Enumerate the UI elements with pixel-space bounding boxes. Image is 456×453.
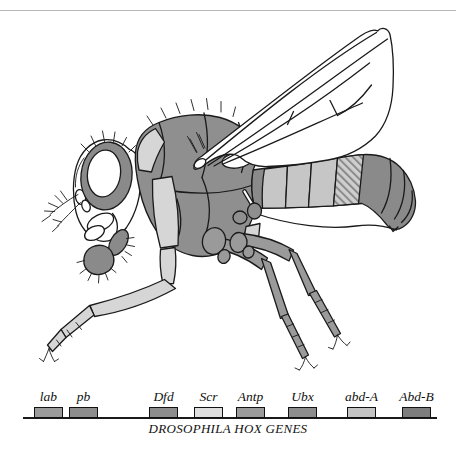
abdomen-segment-a2 [262, 166, 287, 208]
gene-box-abd-A [347, 407, 376, 418]
gene-box-pb [69, 407, 98, 418]
front-leg-tibia [90, 280, 176, 317]
gene-label-Antp: Antp [225, 389, 277, 405]
gene-box-lab [34, 407, 63, 418]
abdomen-segment-a4 [309, 158, 338, 207]
gene-label-pb: pb [58, 389, 110, 405]
gene-box-Dfd [149, 407, 178, 418]
labellum [84, 245, 114, 274]
middle-leg-tibia [262, 259, 289, 319]
gene-label-abd-A: abd-A [336, 389, 388, 405]
head [42, 131, 141, 283]
middle-leg-claw [295, 357, 318, 370]
abdomen-segment-a3 [286, 163, 312, 208]
drosophila-lateral-illustration [0, 0, 456, 453]
abdomen-segment-hatched [334, 155, 364, 206]
small-sclerite [233, 211, 247, 224]
gene-label-Abd-B: Abd-B [391, 389, 443, 405]
hind-leg-claw [329, 335, 351, 349]
thorax-pale-patch-pleura [152, 177, 178, 249]
belly-line [254, 213, 397, 230]
gene-box-Abd-B [402, 407, 431, 418]
front-leg-femur [160, 248, 176, 285]
wing-blade [194, 28, 393, 169]
hind-leg-tarsus [310, 291, 341, 338]
figure-canvas: labpbDfdScrAntpUbxabd-AAbd-B DROSOPHILA … [0, 0, 456, 453]
gene-box-Scr [194, 407, 223, 418]
hind-leg-tibia [289, 250, 317, 296]
front-leg-claw [40, 349, 59, 362]
gene-box-Antp [236, 407, 265, 418]
front-leg-tarsus [61, 306, 94, 338]
wing [188, 28, 394, 170]
gene-label-Ubx: Ubx [277, 389, 329, 405]
gene-box-Ubx [288, 407, 317, 418]
halter-knob [248, 203, 262, 219]
legend-caption: DROSOPHILA HOX GENES [0, 421, 456, 437]
